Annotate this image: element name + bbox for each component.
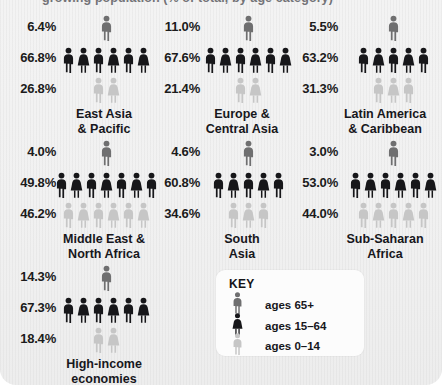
value-label: 6.4% bbox=[0, 19, 56, 34]
person-icon-adult-male bbox=[91, 47, 106, 73]
person-icon-child-male bbox=[386, 202, 401, 228]
person-icon-adult-male bbox=[211, 172, 226, 198]
region-label-line: South bbox=[194, 232, 290, 247]
value-label: 18.4% bbox=[0, 331, 56, 346]
age-band-15-64: 63.2% bbox=[288, 41, 442, 73]
person-icon-adult-male bbox=[241, 172, 256, 198]
age-band-65-plus: 5.5% bbox=[288, 11, 442, 41]
value-label: 4.0% bbox=[0, 144, 56, 159]
key-item-ages-65-plus: ages 65+ bbox=[229, 294, 357, 316]
person-icon-child-male bbox=[416, 202, 431, 228]
region-label: East Asia & Pacific bbox=[0, 107, 150, 136]
age-band-0-14: 31.3% bbox=[288, 73, 442, 103]
value-label: 63.2% bbox=[288, 50, 338, 65]
icon-strip-15-64 bbox=[344, 41, 442, 73]
person-icon-child-male bbox=[371, 77, 386, 103]
person-icon-senior-male bbox=[386, 15, 401, 41]
icon-strip-0-14 bbox=[62, 323, 150, 353]
region-label: Europe & Central Asia bbox=[148, 107, 290, 136]
person-icon-adult-female bbox=[226, 172, 241, 198]
value-label: 46.2% bbox=[0, 206, 56, 221]
person-icon-adult-female bbox=[371, 47, 386, 73]
person-icon-adult-female bbox=[76, 297, 91, 323]
age-band-65-plus: 4.0% bbox=[0, 136, 150, 166]
value-label: 53.0% bbox=[288, 175, 338, 190]
person-icon-adult-male bbox=[54, 172, 69, 198]
icon-strip-65-plus bbox=[62, 136, 150, 166]
value-label: 31.3% bbox=[288, 81, 338, 96]
person-icon-adult-male bbox=[233, 47, 248, 73]
age-band-0-14: 18.4% bbox=[0, 323, 150, 353]
person-icon-child-female bbox=[106, 77, 121, 103]
age-band-65-plus: 6.4% bbox=[0, 11, 150, 41]
person-icon-adult-female bbox=[129, 172, 144, 198]
person-icon-adult-male bbox=[356, 47, 371, 73]
icon-strip-0-14 bbox=[206, 198, 290, 228]
person-icon-child-male bbox=[356, 202, 371, 228]
icon-strip-65-plus bbox=[62, 261, 150, 291]
value-label: 66.8% bbox=[0, 50, 56, 65]
key-title: KEY bbox=[229, 277, 255, 291]
region-group-high-income-economies: 14.3% 67.3% 18.4% High-income economies bbox=[0, 261, 150, 353]
infographic-panel: growing population (% of total, by age c… bbox=[0, 0, 442, 385]
region-label-line: & Pacific bbox=[58, 122, 150, 137]
value-label: 5.5% bbox=[288, 19, 338, 34]
icon-strip-65-plus bbox=[344, 136, 442, 166]
person-icon-adult-female bbox=[256, 172, 271, 198]
region-label: Latin America & Caribbean bbox=[288, 107, 442, 136]
icon-strip-65-plus bbox=[206, 136, 290, 166]
person-icon-adult-male bbox=[121, 297, 136, 323]
age-band-15-64: 53.0% bbox=[288, 166, 442, 198]
icon-strip-15-64 bbox=[206, 41, 290, 73]
age-band-0-14: 26.8% bbox=[0, 73, 150, 103]
region-label-line: Central Asia bbox=[194, 122, 290, 137]
person-icon-child-male bbox=[121, 202, 136, 228]
icon-strip-65-plus bbox=[206, 11, 290, 41]
person-icon-adult-male bbox=[348, 172, 363, 198]
key-legend-box: KEY ages 65+ ages 15–64 ages 0–14 bbox=[216, 270, 364, 356]
icon-strip-65-plus bbox=[344, 11, 442, 41]
icon-strip-15-64 bbox=[206, 166, 290, 198]
age-band-15-64: 67.6% bbox=[148, 41, 290, 73]
person-icon-adult-female bbox=[218, 47, 233, 73]
value-label: 3.0% bbox=[288, 144, 338, 159]
region-label-line: Sub-Saharan bbox=[328, 232, 442, 247]
region-group-sub-saharan-africa: 3.0% 53.0% 44.0% Sub-Saharan Africa bbox=[288, 136, 442, 228]
person-icon-senior-male bbox=[99, 15, 114, 41]
person-icon-child-female bbox=[401, 202, 416, 228]
age-band-0-14: 44.0% bbox=[288, 198, 442, 228]
age-band-0-14: 46.2% bbox=[0, 198, 150, 228]
person-icon-senior-male bbox=[241, 140, 256, 166]
region-label-line: Latin America bbox=[328, 107, 442, 122]
age-band-15-64: 49.8% bbox=[0, 166, 150, 198]
person-icon-child-male bbox=[233, 77, 248, 103]
person-icon-adult-female bbox=[76, 47, 91, 73]
icon-strip-0-14 bbox=[344, 198, 442, 228]
person-icon-adult-female bbox=[69, 172, 84, 198]
person-icon-child-male bbox=[91, 327, 106, 353]
person-icon-adult-male bbox=[263, 47, 278, 73]
person-icon-adult-male bbox=[416, 47, 431, 73]
icon-strip-0-14 bbox=[62, 198, 150, 228]
region-label: High-income economies bbox=[0, 357, 150, 385]
icon-strip-0-14 bbox=[62, 73, 150, 103]
age-band-15-64: 66.8% bbox=[0, 41, 150, 73]
person-icon-adult-male bbox=[84, 172, 99, 198]
age-band-0-14: 21.4% bbox=[148, 73, 290, 103]
person-icon-child-male bbox=[401, 77, 416, 103]
person-icon-adult-male bbox=[203, 47, 218, 73]
person-icon-senior-male bbox=[99, 265, 114, 291]
person-icon-adult-female bbox=[136, 297, 151, 323]
icon-strip-15-64 bbox=[344, 166, 442, 198]
value-label: 44.0% bbox=[288, 206, 338, 221]
age-band-65-plus: 4.6% bbox=[148, 136, 290, 166]
person-icon-child-female bbox=[371, 202, 386, 228]
value-label: 21.4% bbox=[148, 81, 200, 96]
region-label: Middle East & North Africa bbox=[0, 232, 150, 261]
key-item-label: ages 65+ bbox=[265, 299, 314, 311]
value-label: 49.8% bbox=[0, 175, 56, 190]
person-icon-adult-male bbox=[378, 172, 393, 198]
region-label-line: North Africa bbox=[58, 247, 150, 262]
icon-strip-65-plus bbox=[62, 11, 150, 41]
person-icon-adult-male bbox=[408, 172, 423, 198]
